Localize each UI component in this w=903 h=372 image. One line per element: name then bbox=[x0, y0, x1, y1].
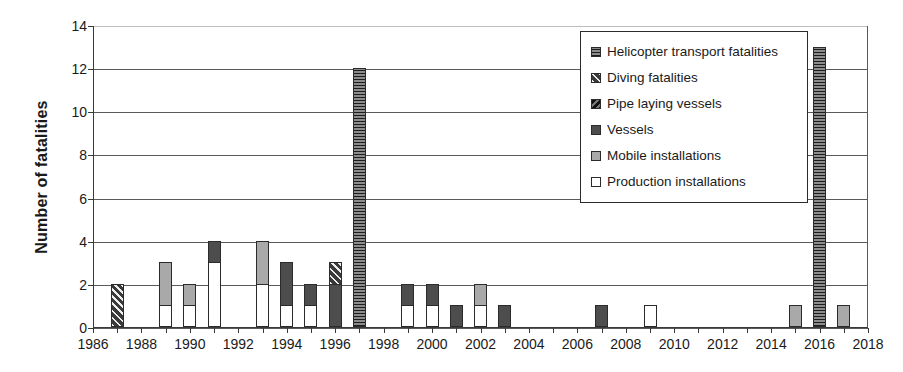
x-tick-mark bbox=[820, 328, 821, 333]
x-tick-mark bbox=[214, 328, 215, 333]
x-tick-mark bbox=[698, 328, 699, 333]
bar-2017 bbox=[837, 305, 850, 327]
legend-swatch-vessels bbox=[591, 125, 601, 135]
bar-segment-production bbox=[280, 305, 293, 327]
bar-1996 bbox=[329, 262, 342, 327]
legend-label-vessels: Vessels bbox=[607, 123, 654, 137]
bar-segment-helicopter bbox=[353, 68, 366, 327]
legend-label-mobile: Mobile installations bbox=[607, 149, 721, 163]
x-tick-mark bbox=[408, 328, 409, 333]
bar-segment-vessels bbox=[450, 305, 463, 327]
y-tick-label: 4 bbox=[53, 235, 87, 249]
x-tick-mark bbox=[747, 328, 748, 333]
bar-segment-mobile bbox=[789, 305, 802, 327]
x-tick-label: 2008 bbox=[601, 336, 651, 352]
x-tick-mark bbox=[263, 328, 264, 333]
bar-segment-vessels bbox=[329, 284, 342, 327]
x-axis-tick-labels: 1986198819901992199419961998200020022004… bbox=[93, 336, 868, 356]
legend-label-production: Production installations bbox=[607, 175, 746, 189]
x-tick-mark bbox=[505, 328, 506, 333]
x-tick-label: 2018 bbox=[843, 336, 893, 352]
bar-segment-vessels bbox=[426, 284, 439, 306]
x-tick-mark bbox=[456, 328, 457, 333]
legend-swatch-pipe bbox=[591, 99, 601, 109]
bar-segment-vessels bbox=[595, 305, 608, 327]
chart-legend: Helicopter transport fatalitiesDiving fa… bbox=[580, 31, 808, 203]
x-tick-mark bbox=[626, 328, 627, 333]
bar-segment-helicopter bbox=[813, 47, 826, 327]
bar-1995 bbox=[304, 284, 317, 327]
bar-2007 bbox=[595, 305, 608, 327]
bar-1997 bbox=[353, 68, 366, 327]
legend-item-mobile[interactable]: Mobile installations bbox=[591, 143, 799, 169]
bar-1999 bbox=[401, 284, 414, 327]
legend-item-helicopter[interactable]: Helicopter transport fatalities bbox=[591, 39, 799, 65]
legend-label-helicopter: Helicopter transport fatalities bbox=[607, 45, 778, 59]
bar-segment-vessels bbox=[498, 305, 511, 327]
bar-1991 bbox=[208, 241, 221, 327]
bar-segment-production bbox=[183, 305, 196, 327]
x-tick-mark bbox=[359, 328, 360, 333]
y-tick-label: 0 bbox=[53, 321, 87, 335]
bar-segment-production bbox=[159, 305, 172, 327]
plot-right-border bbox=[867, 26, 868, 328]
y-tick-label: 14 bbox=[53, 19, 87, 33]
fatalities-bar-chart: Number of fatalities 02468101214 1986198… bbox=[0, 0, 903, 372]
y-axis-line bbox=[93, 26, 94, 328]
x-tick-label: 2004 bbox=[504, 336, 554, 352]
x-tick-label: 2010 bbox=[649, 336, 699, 352]
bar-1990 bbox=[183, 284, 196, 327]
bar-segment-mobile bbox=[837, 305, 850, 327]
x-tick-mark bbox=[577, 328, 578, 333]
bar-segment-vessels bbox=[304, 284, 317, 306]
bar-segment-vessels bbox=[280, 262, 293, 305]
x-tick-mark bbox=[529, 328, 530, 333]
x-axis-tick-marks bbox=[93, 328, 868, 334]
x-tick-label: 1996 bbox=[310, 336, 360, 352]
x-tick-mark bbox=[481, 328, 482, 333]
legend-swatch-helicopter bbox=[591, 47, 601, 57]
x-tick-mark bbox=[141, 328, 142, 333]
legend-item-diving[interactable]: Diving fatalities bbox=[591, 65, 799, 91]
bar-2001 bbox=[450, 305, 463, 327]
bar-segment-production bbox=[208, 262, 221, 327]
y-tick-label: 12 bbox=[53, 62, 87, 76]
legend-item-production[interactable]: Production installations bbox=[591, 169, 799, 195]
bar-1987 bbox=[111, 284, 124, 327]
bar-2015 bbox=[789, 305, 802, 327]
bar-2002 bbox=[474, 284, 487, 327]
bar-segment-production bbox=[304, 305, 317, 327]
legend-item-vessels[interactable]: Vessels bbox=[591, 117, 799, 143]
y-tick-label: 10 bbox=[53, 105, 87, 119]
bar-segment-production bbox=[644, 305, 657, 327]
x-tick-mark bbox=[311, 328, 312, 333]
bar-segment-production bbox=[426, 305, 439, 327]
bar-1989 bbox=[159, 262, 172, 327]
bar-1994 bbox=[280, 262, 293, 327]
x-tick-label: 1988 bbox=[116, 336, 166, 352]
legend-item-pipe[interactable]: Pipe laying vessels bbox=[591, 91, 799, 117]
x-tick-mark bbox=[190, 328, 191, 333]
bar-segment-production bbox=[474, 305, 487, 327]
legend-label-diving: Diving fatalities bbox=[607, 71, 698, 85]
bar-segment-mobile bbox=[256, 241, 269, 284]
x-tick-mark bbox=[723, 328, 724, 333]
x-tick-mark bbox=[844, 328, 845, 333]
y-axis-tick-labels: 02468101214 bbox=[49, 26, 87, 328]
bar-2003 bbox=[498, 305, 511, 327]
x-tick-label: 2002 bbox=[456, 336, 506, 352]
x-tick-mark bbox=[674, 328, 675, 333]
bar-2000 bbox=[426, 284, 439, 327]
x-tick-label: 2016 bbox=[795, 336, 845, 352]
bar-segment-production bbox=[256, 284, 269, 327]
legend-swatch-diving bbox=[591, 73, 601, 83]
bar-segment-mobile bbox=[159, 262, 172, 305]
legend-label-pipe: Pipe laying vessels bbox=[607, 97, 722, 111]
x-tick-label: 1992 bbox=[213, 336, 263, 352]
bar-segment-mobile bbox=[474, 284, 487, 306]
x-tick-label: 2014 bbox=[746, 336, 796, 352]
bar-2016 bbox=[813, 47, 826, 327]
x-tick-mark bbox=[795, 328, 796, 333]
bar-segment-diving bbox=[111, 284, 124, 327]
x-tick-mark bbox=[868, 328, 869, 333]
